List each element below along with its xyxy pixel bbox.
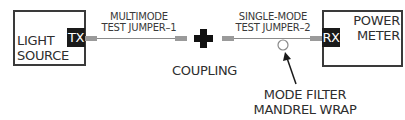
mandrel-circle-icon [278,40,288,50]
arrow-line [287,58,296,84]
power-meter-label-line1: POWER [344,13,400,28]
power-meter-label: POWER METER [344,13,400,43]
power-meter-label-line2: METER [344,28,400,43]
rx-port: RX [322,28,340,47]
mandrel-label-line2: MANDREL WRAP [250,102,360,117]
mandrel-label: MODE FILTER MANDREL WRAP [250,87,360,117]
arrow-head-icon [283,52,291,61]
mandrel-label-line1: MODE FILTER [250,87,360,102]
